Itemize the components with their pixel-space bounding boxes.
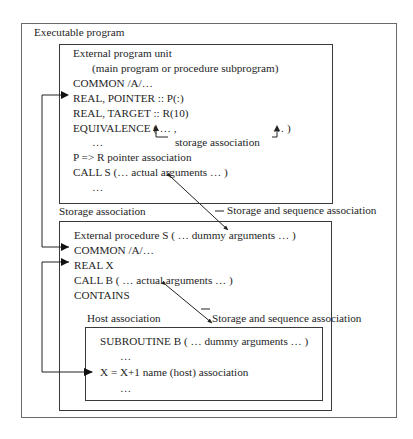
code-line: SUBROUTINE B ( … dummy arguments … ) [100, 335, 308, 348]
code-line: … ) [273, 122, 291, 135]
ellipsis: … [120, 382, 131, 395]
code-line: P => R pointer association [73, 151, 191, 164]
external-program-unit-subtitle: (main program or procedure subprogram) [92, 62, 278, 75]
ellipsis: … [92, 181, 103, 194]
storage-association-label: Storage association [59, 205, 146, 218]
ellipsis: … [92, 136, 103, 149]
code-line: CONTAINS [74, 289, 130, 302]
host-association-label: Host association [87, 312, 161, 325]
storage-association-annotation: storage association [175, 136, 260, 149]
executable-program-label: Executable program [34, 26, 124, 39]
ellipsis: … [120, 350, 131, 363]
code-line: REAL, TARGET :: R(10) [73, 107, 189, 120]
storage-sequence-association-label: Storage and sequence association [227, 204, 376, 217]
external-program-unit-title: External program unit [73, 47, 172, 60]
code-line: External procedure S ( … dummy arguments… [74, 229, 296, 242]
code-line: REAL X [74, 259, 114, 272]
code-line: EQUIVALENCE ( … , [73, 122, 177, 135]
code-line: CALL B ( … actual arguments … ) [74, 274, 233, 287]
code-line: CALL S (… actual arguments … ) [73, 166, 228, 179]
code-line: COMMON /A/… [73, 77, 153, 90]
code-line: X = X+1 name (host) association [100, 366, 248, 379]
storage-sequence-association-label-2: Storage and sequence association [212, 312, 361, 325]
code-line: COMMON /A/… [74, 244, 154, 257]
code-line: REAL, POINTER :: P(:) [73, 92, 184, 105]
